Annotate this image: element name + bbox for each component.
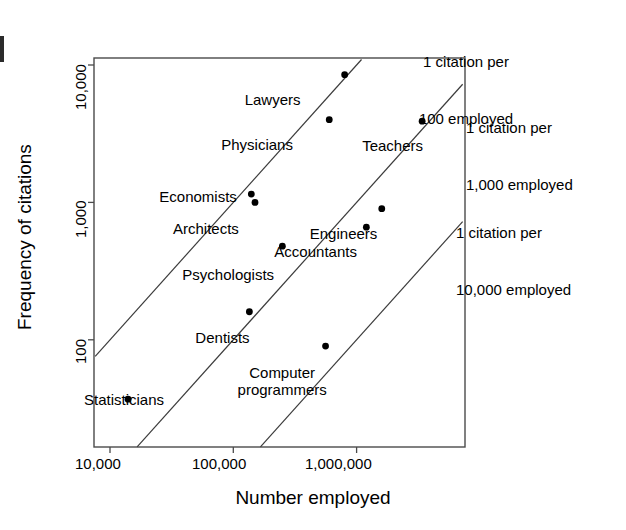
annotation-10000-line2: 10,000 employed [456,280,626,299]
data-point-label-line: Teachers [362,137,423,154]
data-point-label-line: Engineers [310,225,378,242]
annotation-1000-line1: 1 citation per [466,118,626,137]
data-point-label: Physicians [221,136,293,153]
x-tick-label-1000000: 1,000,000 [305,455,372,472]
x-tick-label-100000: 100,000 [192,455,246,472]
data-point-label-line: Architects [173,220,239,237]
data-point-label: Engineers [310,225,378,242]
data-point-label-line: Computer [238,364,327,381]
data-point [322,343,329,350]
data-point-label-line: Dentists [195,329,249,346]
data-point-label: Computerprogrammers [238,364,327,398]
y-tick-label-10000: 10,000 [72,64,89,110]
annotation-100-line1: 1 citation per [386,52,546,71]
data-point-label: Teachers [362,137,423,154]
y-tick-label-100: 100 [72,339,89,364]
data-point-label-line: programmers [238,381,327,398]
data-point-label: Economists [159,188,237,205]
data-point-label: Psychologists [182,266,274,283]
data-point-label: Lawyers [245,91,301,108]
y-tick-label-1000: 1,000 [72,200,89,238]
data-points [125,71,426,402]
data-point-label: Statisticians [84,391,164,408]
data-point-label-line: Lawyers [245,91,301,108]
data-point [341,71,348,78]
data-point-label-line: Physicians [221,136,293,153]
data-point [252,199,259,206]
data-point [378,205,385,212]
data-point-label-line: Accountants [274,243,357,260]
data-point-label: Accountants [274,243,357,260]
data-point [326,116,333,123]
annotation-10000-line1: 1 citation per [456,223,626,242]
scatter-plot-figure: 1 citation per 100 employed 1 citation p… [0,0,626,530]
data-point-label-line: Economists [159,188,237,205]
data-point-label-line: Psychologists [182,266,274,283]
data-point [246,308,253,315]
data-point-label: Dentists [195,329,249,346]
data-point [248,191,255,198]
annotation-10000-employed: 1 citation per 10,000 employed [456,185,626,337]
x-axis-title: Number employed [0,487,626,509]
y-axis-title: Frequency of citations [14,144,36,330]
x-tick-label-10000: 10,000 [75,455,121,472]
data-point-label-line: Statisticians [84,391,164,408]
reference-line-0 [95,60,361,357]
data-point-label: Architects [173,220,239,237]
